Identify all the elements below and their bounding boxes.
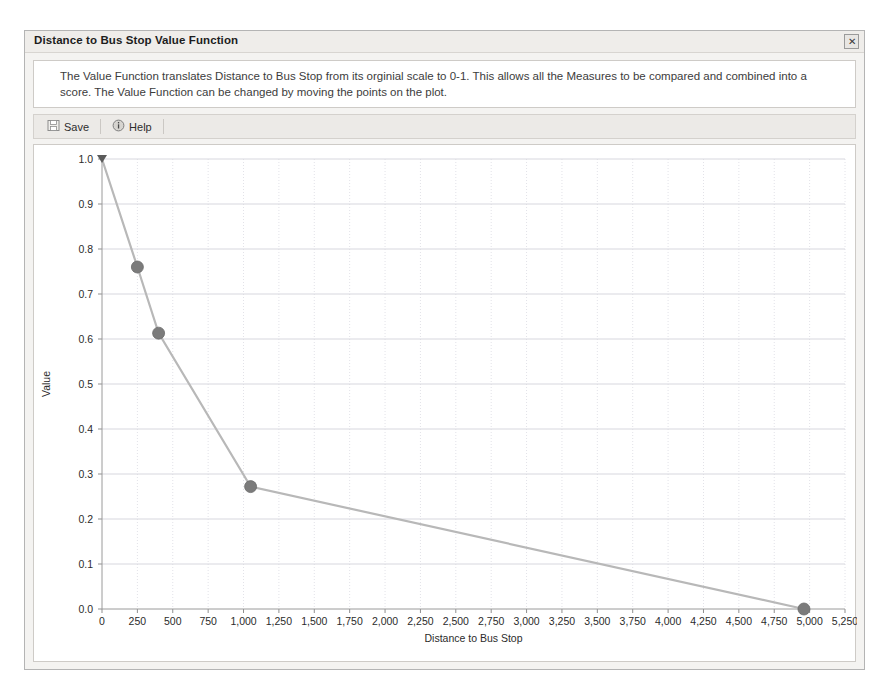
window-titlebar: Distance to Bus Stop Value Function ✕: [25, 31, 864, 53]
svg-text:3,000: 3,000: [513, 615, 539, 627]
window-title: Distance to Bus Stop Value Function: [34, 34, 238, 46]
description-panel: The Value Function translates Distance t…: [33, 60, 856, 108]
chart-canvas[interactable]: 02505007501,0001,2501,5001,7502,0002,250…: [34, 145, 857, 661]
y-axis-tick-labels: 0.00.10.20.30.40.50.60.70.80.91.0: [78, 153, 93, 615]
svg-text:1,250: 1,250: [266, 615, 292, 627]
y-axis-title: Value: [40, 371, 52, 397]
svg-text:500: 500: [164, 615, 182, 627]
description-text: The Value Function translates Distance t…: [60, 68, 841, 100]
y-axis-ticks: [98, 159, 102, 609]
svg-text:4,250: 4,250: [690, 615, 716, 627]
svg-text:0: 0: [99, 615, 105, 627]
svg-text:3,750: 3,750: [620, 615, 646, 627]
svg-text:3,500: 3,500: [584, 615, 610, 627]
svg-text:5,000: 5,000: [796, 615, 822, 627]
svg-text:0.8: 0.8: [78, 243, 93, 255]
x-axis-tick-labels: 02505007501,0001,2501,5001,7502,0002,250…: [99, 615, 857, 627]
svg-text:0.0: 0.0: [78, 603, 93, 615]
svg-text:1,750: 1,750: [337, 615, 363, 627]
svg-text:1,000: 1,000: [230, 615, 256, 627]
help-button[interactable]: Help: [105, 116, 159, 137]
svg-text:2,750: 2,750: [478, 615, 504, 627]
svg-text:0.7: 0.7: [78, 288, 93, 300]
svg-text:3,250: 3,250: [549, 615, 575, 627]
svg-text:0.9: 0.9: [78, 198, 93, 210]
svg-text:250: 250: [129, 615, 147, 627]
svg-text:0.3: 0.3: [78, 468, 93, 480]
svg-text:750: 750: [199, 615, 217, 627]
save-button[interactable]: Save: [40, 116, 96, 137]
svg-text:0.2: 0.2: [78, 513, 93, 525]
help-button-label: Help: [129, 121, 152, 133]
svg-text:2,250: 2,250: [407, 615, 433, 627]
svg-text:4,750: 4,750: [761, 615, 787, 627]
svg-text:2,000: 2,000: [372, 615, 398, 627]
x-axis-title: Distance to Bus Stop: [424, 632, 522, 644]
screenshot-root: Distance to Bus Stop Value Function ✕ Th…: [0, 0, 889, 700]
svg-text:0.1: 0.1: [78, 558, 93, 570]
svg-text:4,500: 4,500: [726, 615, 752, 627]
x-axis-ticks: [102, 609, 845, 613]
svg-text:0.4: 0.4: [78, 423, 93, 435]
svg-text:0.6: 0.6: [78, 333, 93, 345]
svg-text:1,500: 1,500: [301, 615, 327, 627]
toolbar-separator-1: [100, 119, 101, 134]
svg-text:1.0: 1.0: [78, 153, 93, 165]
svg-text:5,250: 5,250: [832, 615, 857, 627]
toolbar-separator-2: [163, 119, 164, 134]
save-button-label: Save: [64, 121, 89, 133]
window-toolbar: Save Help: [33, 114, 856, 139]
close-icon[interactable]: ✕: [844, 34, 859, 49]
svg-text:0.5: 0.5: [78, 378, 93, 390]
help-info-icon: [112, 119, 125, 134]
svg-text:4,000: 4,000: [655, 615, 681, 627]
save-disk-icon: [47, 119, 60, 134]
close-glyph: ✕: [848, 37, 856, 47]
horizontal-gridlines: [102, 159, 845, 564]
value-function-window: Distance to Bus Stop Value Function ✕ Th…: [24, 30, 865, 670]
value-function-chart[interactable]: 02505007501,0001,2501,5001,7502,0002,250…: [33, 144, 856, 662]
svg-text:2,500: 2,500: [443, 615, 469, 627]
